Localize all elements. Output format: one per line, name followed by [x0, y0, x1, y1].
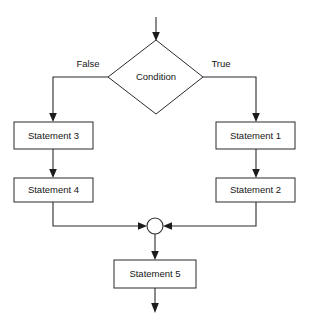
- edge-statement1-to-statement2: [252, 149, 260, 178]
- process-node-statement3-label: Statement 3: [28, 130, 79, 141]
- edge-condition-false-to-statement3: [49, 77, 108, 122]
- process-node-statement1[interactable]: Statement 1: [216, 122, 295, 149]
- process-node-statement4[interactable]: Statement 4: [14, 178, 93, 202]
- edge-merge-to-statement5: [151, 234, 159, 260]
- edge-condition-true-to-statement1: [203, 77, 260, 122]
- process-node-statement5[interactable]: Statement 5: [114, 260, 196, 288]
- process-node-statement3[interactable]: Statement 3: [14, 122, 93, 149]
- branch-label-false: False: [76, 58, 99, 69]
- flowchart-diagram: Condition False True Statement 3 Stateme…: [0, 0, 310, 327]
- process-node-statement2-label: Statement 2: [230, 184, 281, 195]
- edge-statement3-to-statement4: [49, 149, 57, 178]
- process-node-statement1-label: Statement 1: [230, 130, 281, 141]
- edge-statement2-to-merge: [163, 202, 256, 230]
- edge-statement4-to-merge: [53, 202, 147, 230]
- merge-node-junction[interactable]: [147, 218, 163, 234]
- process-node-statement2[interactable]: Statement 2: [216, 178, 295, 202]
- branch-label-true: True: [211, 58, 230, 69]
- flowchart-canvas: Condition False True Statement 3 Stateme…: [0, 0, 310, 327]
- edge-statement5-to-exit: [151, 288, 159, 313]
- decision-node-label: Condition: [136, 71, 176, 82]
- process-node-statement4-label: Statement 4: [28, 184, 79, 195]
- process-node-statement5-label: Statement 5: [129, 268, 180, 279]
- edge-entry-to-condition: [152, 17, 160, 41]
- decision-node-condition[interactable]: Condition: [108, 40, 203, 114]
